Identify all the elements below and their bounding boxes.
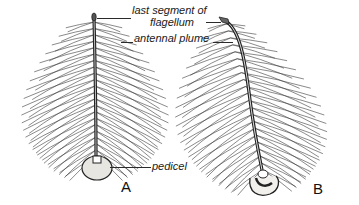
flagellum-label: flagellum bbox=[150, 16, 194, 28]
pedicel-label: pedicel bbox=[152, 160, 187, 172]
antennal-plume-leader-b bbox=[213, 42, 233, 43]
antennal-plume-leader-a bbox=[121, 42, 133, 43]
antenna-b-pedicel bbox=[250, 170, 279, 195]
pedicel-leader bbox=[110, 167, 151, 168]
antenna-a-flagellum bbox=[92, 13, 96, 158]
last-segment-leader-a bbox=[97, 18, 131, 19]
panel-label-a: A bbox=[121, 179, 131, 195]
antenna-figure: last segment of flagellum antennal plume… bbox=[0, 0, 359, 205]
antennal-plume-label: antennal plume bbox=[134, 32, 209, 44]
antenna-illustration bbox=[0, 0, 359, 205]
last-segment-leader-b bbox=[206, 22, 221, 23]
antenna-a-pedicel bbox=[82, 156, 112, 180]
last-segment-label: last segment of bbox=[132, 4, 207, 16]
panel-label-b: B bbox=[313, 181, 323, 197]
